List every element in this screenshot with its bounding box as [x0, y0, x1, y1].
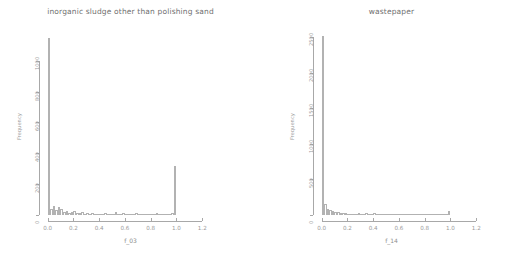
chart-title-right: wastepaper	[261, 7, 522, 16]
x-axis-tick-label: 0.6	[115, 225, 135, 231]
y-axis-tick-label: 600	[34, 122, 40, 132]
chart-panel-left: inorganic sludge other than polishing sa…	[0, 0, 261, 268]
x-axis-label-right: f_14	[261, 237, 522, 244]
x-axis-tick-label: 1.0	[440, 225, 460, 231]
x-axis-tick	[99, 218, 100, 221]
x-axis-tick	[176, 218, 177, 221]
y-axis-tick-label: 0	[308, 221, 314, 224]
x-axis-tick	[373, 218, 374, 221]
figure-canvas: inorganic sludge other than polishing sa…	[0, 0, 522, 268]
y-axis-tick-label: 800	[34, 91, 40, 101]
x-axis-tick	[425, 218, 426, 221]
x-axis-tick-label: 0.2	[337, 225, 357, 231]
x-axis-tick-label: 0.6	[389, 225, 409, 231]
x-axis-tick-label: 1.2	[466, 225, 486, 231]
histogram-bar	[448, 211, 451, 215]
y-axis-tick-label: 500	[308, 179, 314, 189]
x-axis-tick-label: 0.0	[312, 225, 332, 231]
x-axis-tick	[347, 218, 348, 221]
y-axis-line	[313, 37, 314, 215]
y-axis-tick-label: 1500	[308, 104, 314, 117]
y-axis-tick	[36, 215, 39, 216]
x-axis-tick-label: 0.0	[38, 225, 58, 231]
histogram-bar	[322, 36, 325, 215]
chart-panel-right: wastepaper Frequency 0.00.20.40.60.81.01…	[261, 0, 522, 268]
x-axis-tick-label: 0.2	[63, 225, 83, 231]
x-axis-tick-label: 0.4	[89, 225, 109, 231]
x-axis-tick	[73, 218, 74, 221]
x-axis-line	[48, 221, 203, 222]
x-axis-line	[322, 221, 477, 222]
y-axis-label-right: Frequency	[289, 113, 295, 140]
histogram-bar	[174, 166, 177, 215]
y-axis-label-left: Frequency	[16, 113, 22, 140]
y-axis-tick-label: 2000	[308, 69, 314, 82]
x-axis-tick-label: 0.8	[141, 225, 161, 231]
x-axis-tick-label: 1.0	[166, 225, 186, 231]
plot-area-right: 0.00.20.40.60.81.01.20500100015002000250…	[319, 33, 484, 215]
x-axis-label-left: f_03	[0, 237, 261, 244]
x-axis-tick	[202, 218, 203, 221]
x-axis-tick-label: 1.2	[192, 225, 212, 231]
y-axis-tick-label: 1000	[34, 57, 40, 70]
y-axis-tick-label: 1000	[308, 140, 314, 153]
x-axis-tick	[322, 218, 323, 221]
x-axis-tick	[476, 218, 477, 221]
x-axis-tick	[125, 218, 126, 221]
x-axis-tick	[48, 218, 49, 221]
y-axis-tick-label: 400	[34, 152, 40, 162]
plot-area-left: 0.00.20.40.60.81.01.202004006008001000	[45, 33, 210, 215]
histogram-bar	[48, 38, 51, 215]
y-axis-tick-label: 0	[34, 221, 40, 224]
y-axis-tick	[310, 215, 313, 216]
x-axis-tick	[399, 218, 400, 221]
x-axis-tick	[450, 218, 451, 221]
y-axis-tick-label: 200	[34, 183, 40, 193]
x-axis-tick	[151, 218, 152, 221]
chart-title-left: inorganic sludge other than polishing sa…	[0, 7, 261, 16]
y-axis-tick-label: 2500	[308, 33, 314, 46]
x-axis-tick-label: 0.4	[363, 225, 383, 231]
x-axis-tick-label: 0.8	[415, 225, 435, 231]
